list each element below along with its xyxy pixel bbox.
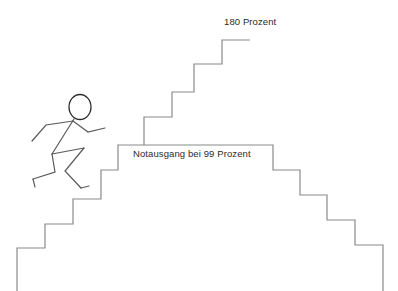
figure-torso [52, 119, 74, 154]
label-notausgang: Notausgang bei 99 Prozent [133, 149, 251, 159]
figure-front-leg [65, 148, 84, 188]
figure-front-foot [81, 186, 89, 188]
stairs-drawing [0, 0, 398, 291]
illustration-canvas: 180 Prozent Notausgang bei 99 Prozent [0, 0, 398, 291]
figure-head-icon [69, 95, 91, 120]
staircase-outline-path [17, 145, 383, 291]
figure-right-arm [73, 121, 105, 132]
running-stick-figure [32, 95, 105, 189]
figure-rear-leg [33, 154, 55, 179]
upper-staircase-path [144, 40, 250, 145]
label-180-prozent: 180 Prozent [224, 17, 276, 27]
figure-rear-foot [33, 179, 35, 187]
